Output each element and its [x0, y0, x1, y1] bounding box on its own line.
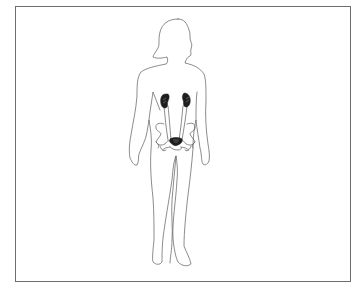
left-ureter	[168, 106, 173, 142]
bladder	[170, 138, 183, 146]
anatomy-figure	[0, 0, 358, 290]
pelvis-left-ilium	[156, 123, 170, 145]
pelvis-base	[170, 147, 181, 150]
body-outline	[129, 19, 209, 266]
pelvis-left-pubic	[156, 142, 170, 151]
left-arm-inner-line	[149, 92, 160, 120]
right-arm-inner-line	[196, 92, 197, 120]
right-ureter	[179, 106, 183, 140]
left-ureter-outer	[164, 106, 168, 140]
left-kidney	[182, 93, 190, 107]
